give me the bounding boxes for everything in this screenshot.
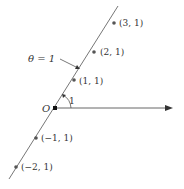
polar-diagram: O 1 θ = 1 (3, 1) (2, 1) (1, 1) (−1, 1) (… bbox=[0, 0, 184, 189]
origin-label: O bbox=[42, 103, 50, 114]
arrow-head-icon bbox=[165, 105, 173, 111]
point-neg2-1: (−2, 1) bbox=[14, 162, 53, 172]
svg-text:(−1, 1): (−1, 1) bbox=[41, 133, 73, 143]
origin-point bbox=[53, 106, 57, 110]
point-3-1: (3, 1) bbox=[112, 18, 143, 28]
point-1-1: (1, 1) bbox=[72, 76, 103, 86]
angle-label: 1 bbox=[69, 96, 75, 106]
svg-text:(1, 1): (1, 1) bbox=[79, 76, 103, 86]
svg-text:(2, 1): (2, 1) bbox=[100, 47, 124, 57]
theta-line bbox=[9, 6, 118, 179]
arc-arrow-icon bbox=[62, 94, 66, 98]
svg-text:(−2, 1): (−2, 1) bbox=[21, 162, 53, 172]
point-neg1-1: (−1, 1) bbox=[34, 133, 73, 143]
theta-line-label: θ = 1 bbox=[28, 53, 55, 64]
label-pointer bbox=[60, 59, 78, 68]
point-2-1: (2, 1) bbox=[92, 47, 124, 57]
svg-text:(3, 1): (3, 1) bbox=[119, 18, 143, 28]
